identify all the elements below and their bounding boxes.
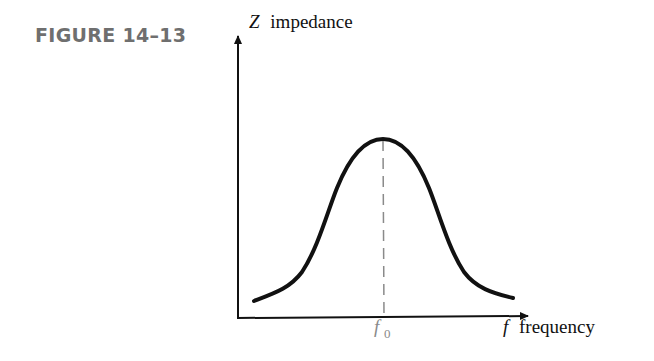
y-axis-symbol: Z — [249, 11, 260, 32]
f0-tick-subscript: 0 — [384, 326, 391, 341]
svg-text:f frequency: f frequency — [503, 316, 595, 337]
y-axis-label: impedance — [270, 11, 352, 32]
f0-tick-symbol: f — [374, 316, 382, 337]
x-axis-label: frequency — [519, 316, 595, 337]
f0-dashed-line — [383, 140, 384, 318]
x-axis-symbol: f — [503, 316, 511, 337]
impedance-chart: Z impedance f frequency f 0 — [0, 0, 654, 361]
svg-text:f 0: f 0 — [374, 316, 391, 341]
svg-text:Z impedance: Z impedance — [249, 11, 353, 32]
